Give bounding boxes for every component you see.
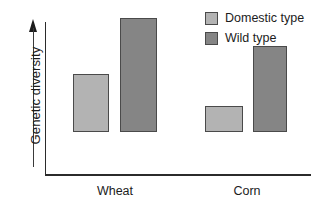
legend-swatch-domestic-type: [205, 12, 218, 25]
legend-item-wild-type: Wild type: [205, 29, 304, 47]
legend-item-domestic-type: Domestic type: [205, 9, 304, 27]
legend: Domestic type Wild type: [205, 9, 304, 49]
x-tick-label-corn: Corn: [207, 184, 287, 198]
legend-label-wild-type: Wild type: [225, 32, 276, 45]
bar-corn-wild: [253, 46, 287, 132]
genetic-diversity-bar-chart: Genetic diversity Wheat Corn Domestic ty…: [0, 0, 324, 218]
x-tick-label-wheat: Wheat: [75, 184, 155, 198]
bar-wheat-domestic: [73, 74, 109, 132]
bar-corn-domestic: [205, 106, 243, 132]
legend-label-domestic-type: Domestic type: [225, 12, 304, 25]
legend-swatch-wild-type: [205, 32, 218, 45]
bar-wheat-wild: [120, 18, 157, 132]
